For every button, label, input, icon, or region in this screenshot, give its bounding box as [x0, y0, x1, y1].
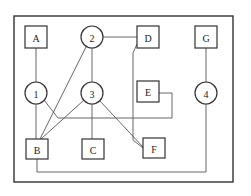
label-1: 1: [34, 89, 39, 100]
label-F: F: [151, 144, 157, 155]
label-C: C: [90, 145, 97, 156]
label-2: 2: [90, 33, 95, 44]
edge-3-B: [41, 100, 84, 139]
label-E: E: [145, 87, 151, 98]
label-B: B: [34, 145, 41, 156]
edge-4-B: [37, 104, 206, 172]
edge-3-F: [100, 101, 143, 147]
label-G: G: [202, 33, 209, 44]
label-D: D: [144, 33, 151, 44]
label-4: 4: [204, 89, 209, 100]
label-A: A: [32, 33, 40, 44]
label-3: 3: [90, 89, 95, 100]
diagram-canvas: A 2 D G 1 3 E 4 B C F: [0, 0, 251, 196]
